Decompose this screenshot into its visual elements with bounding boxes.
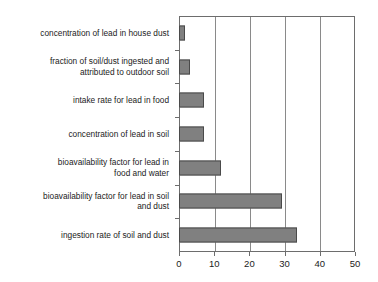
- category-label: bioavailability factor for lead in soil …: [0, 191, 175, 212]
- x-axis-tick: [285, 252, 286, 256]
- x-axis: 01020304050: [0, 252, 378, 282]
- bar[interactable]: [179, 25, 185, 40]
- x-axis-tick-label: 30: [279, 258, 290, 269]
- x-axis-tick: [355, 252, 356, 256]
- x-axis-tick-label: 0: [176, 258, 181, 269]
- bar-rows: concentration of lead in house dustfract…: [0, 16, 378, 252]
- category-label: bioavailability factor for lead in food …: [0, 157, 175, 178]
- bar-track: [175, 185, 378, 219]
- y-axis-tick: [175, 151, 179, 152]
- y-axis-tick: [175, 117, 179, 118]
- bar-row: fraction of soil/dust ingested and attri…: [0, 50, 378, 84]
- chart-screenshot: concentration of lead in house dustfract…: [0, 0, 378, 282]
- bar-track: [175, 50, 378, 84]
- category-label: concentration of lead in soil: [0, 129, 175, 140]
- bar[interactable]: [179, 194, 282, 209]
- x-axis-tick: [320, 252, 321, 256]
- category-label: fraction of soil/dust ingested and attri…: [0, 56, 175, 77]
- bar[interactable]: [179, 126, 204, 141]
- bar-row: bioavailability factor for lead in soil …: [0, 185, 378, 219]
- bar[interactable]: [179, 228, 297, 243]
- y-axis-tick: [175, 218, 179, 219]
- y-axis-tick: [175, 83, 179, 84]
- y-axis-tick: [175, 185, 179, 186]
- x-axis-tick: [249, 252, 250, 256]
- y-axis-tick: [175, 50, 179, 51]
- x-axis-tick: [179, 252, 180, 256]
- bar-track: [175, 151, 378, 185]
- bar-row: bioavailability factor for lead in food …: [0, 151, 378, 185]
- x-axis-tick-label: 40: [315, 258, 326, 269]
- category-label: intake rate for lead in food: [0, 95, 175, 106]
- bar-track: [175, 83, 378, 117]
- x-axis-tick-label: 10: [209, 258, 220, 269]
- bar-row: concentration of lead in house dust: [0, 16, 378, 50]
- x-axis-tick-label: 20: [244, 258, 255, 269]
- bar-row: concentration of lead in soil: [0, 117, 378, 151]
- bar[interactable]: [179, 160, 221, 175]
- category-label: concentration of lead in house dust: [0, 28, 175, 39]
- bar-track: [175, 117, 378, 151]
- bar[interactable]: [179, 93, 204, 108]
- bar[interactable]: [179, 59, 190, 74]
- bar-track: [175, 218, 378, 252]
- bar-row: ingestion rate of soil and dust: [0, 218, 378, 252]
- bar-track: [175, 16, 378, 50]
- x-axis-tick: [214, 252, 215, 256]
- category-label: ingestion rate of soil and dust: [0, 230, 175, 241]
- bar-row: intake rate for lead in food: [0, 83, 378, 117]
- x-axis-tick-label: 50: [350, 258, 361, 269]
